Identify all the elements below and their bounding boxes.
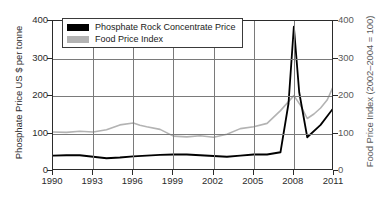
legend-item: Phosphate Rock Concentrate Price bbox=[67, 22, 236, 32]
x-tickmark bbox=[333, 170, 334, 175]
gridline-vertical bbox=[254, 21, 255, 169]
x-tickmark bbox=[293, 170, 294, 175]
legend-swatch bbox=[67, 24, 89, 31]
legend-label: Phosphate Rock Concentrate Price bbox=[95, 22, 236, 32]
chart-legend: Phosphate Rock Concentrate PriceFood Pri… bbox=[62, 18, 243, 48]
y-tick-label-right: 0 bbox=[338, 164, 343, 175]
legend-label: Food Price Index bbox=[95, 34, 163, 44]
caption-fragment bbox=[0, 193, 120, 201]
y-axis-left-ticks: 0100200300400 bbox=[14, 0, 48, 201]
x-tick-label: 1996 bbox=[122, 175, 143, 186]
series-line-food-price-index bbox=[53, 85, 333, 138]
x-tick-label: 2011 bbox=[323, 175, 343, 186]
y-tickmark-right bbox=[333, 58, 338, 59]
y-tickmark-left bbox=[47, 58, 52, 59]
x-tick-label: 2008 bbox=[282, 175, 303, 186]
x-tickmark bbox=[213, 170, 214, 175]
x-tick-label: 1999 bbox=[162, 175, 183, 186]
y-tickmark-left bbox=[47, 95, 52, 96]
y-tickmark-left bbox=[47, 20, 52, 21]
x-axis-ticks: 19901993199619992002200520082011 bbox=[52, 175, 333, 191]
y-tick-label-right: 200 bbox=[338, 89, 354, 100]
y-tick-label-right: 400 bbox=[338, 14, 354, 25]
y-axis-right-ticks: 0100200300400 bbox=[338, 0, 368, 201]
y-tickmark-right bbox=[333, 133, 338, 134]
y-tick-label-left: 300 bbox=[32, 52, 48, 63]
legend-swatch bbox=[67, 36, 89, 43]
chart-figure: Phosphate Price US $ per tonne Food Pric… bbox=[0, 0, 387, 201]
y-tickmark-right bbox=[333, 20, 338, 21]
y-tickmark-right bbox=[333, 95, 338, 96]
gridline-horizontal bbox=[53, 134, 332, 135]
y-tick-label-left: 100 bbox=[32, 127, 48, 138]
gridline-horizontal bbox=[53, 59, 332, 60]
legend-item: Food Price Index bbox=[67, 34, 236, 44]
gridline-horizontal bbox=[53, 96, 332, 97]
x-tick-label: 2005 bbox=[242, 175, 263, 186]
x-tick-label: 1993 bbox=[82, 175, 103, 186]
x-tick-label: 1990 bbox=[41, 175, 62, 186]
x-tickmark bbox=[172, 170, 173, 175]
y-tick-label-right: 100 bbox=[338, 127, 354, 138]
gridline-vertical bbox=[294, 21, 295, 169]
x-tick-label: 2002 bbox=[202, 175, 223, 186]
y-tickmark-left bbox=[47, 133, 52, 134]
x-tickmark bbox=[132, 170, 133, 175]
x-tickmark bbox=[52, 170, 53, 175]
y-tick-label-left: 200 bbox=[32, 89, 48, 100]
y-tick-label-left: 400 bbox=[32, 14, 48, 25]
y-tick-label-right: 300 bbox=[338, 52, 354, 63]
x-tickmark bbox=[253, 170, 254, 175]
x-tickmark bbox=[92, 170, 93, 175]
